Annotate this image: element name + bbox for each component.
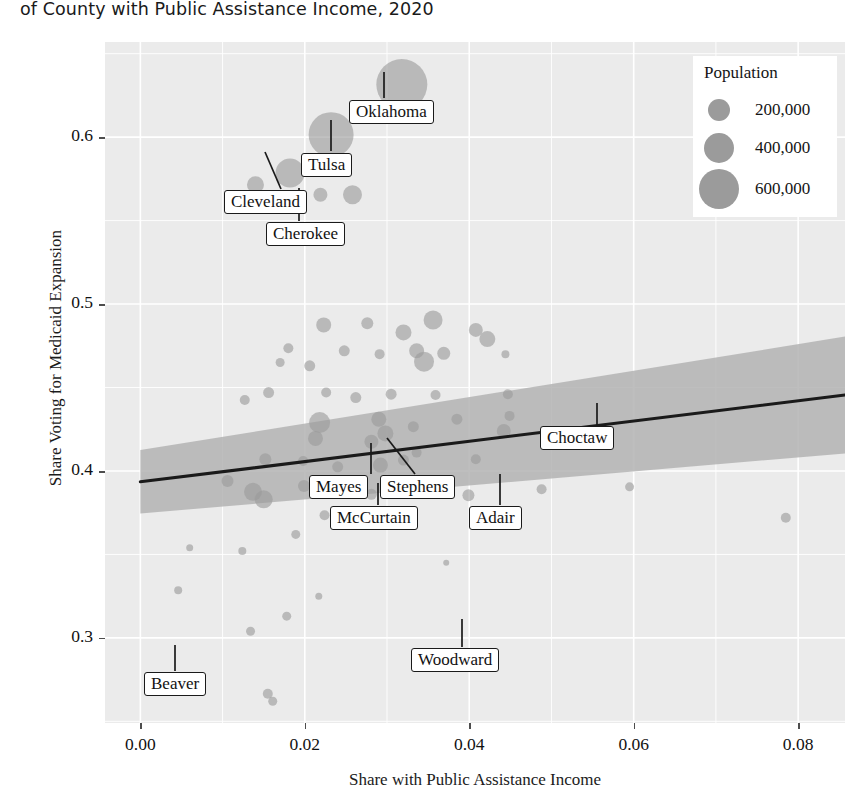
x-axis-label: Share with Public Assistance Income xyxy=(349,770,601,789)
x-tick-label: 0.04 xyxy=(454,734,485,755)
annotation-label-cleveland: Cleveland xyxy=(224,190,307,214)
x-tick-mark xyxy=(305,723,307,729)
annotation-label-adair: Adair xyxy=(469,506,522,530)
x-tick-label: 0.06 xyxy=(618,734,649,755)
legend-item: 400,000 xyxy=(693,129,837,167)
annotation-label-stephens: Stephens xyxy=(380,475,455,499)
annotation-label-cherokee: Cherokee xyxy=(266,222,345,246)
x-tick-label: 0.02 xyxy=(289,734,320,755)
legend: Population 200,000400,000600,000 xyxy=(693,56,837,217)
legend-key-circle xyxy=(708,99,730,121)
legend-label: 400,000 xyxy=(755,138,810,158)
page-title: of County with Public Assistance Income,… xyxy=(20,0,434,19)
annotation-label-mayes: Mayes xyxy=(309,475,368,499)
annotation-label-woodward: Woodward xyxy=(411,648,499,672)
x-tick-mark xyxy=(798,723,800,729)
annotation-label-beaver: Beaver xyxy=(144,672,206,696)
x-axis-label-wrapper: Share with Public Assistance Income xyxy=(105,770,845,790)
y-tick-label: 0.4 xyxy=(35,459,93,480)
legend-label: 600,000 xyxy=(755,179,810,199)
annotation-label-choctaw: Choctaw xyxy=(540,426,614,450)
annotation-label-tulsa: Tulsa xyxy=(301,153,352,177)
x-tick-label: 0.08 xyxy=(783,734,814,755)
legend-item: 600,000 xyxy=(693,170,837,208)
chart-root: of County with Public Assistance Income,… xyxy=(0,0,861,807)
legend-key-circle xyxy=(699,169,739,209)
x-tick-mark xyxy=(634,723,636,729)
legend-title: Population xyxy=(704,63,778,83)
y-tick-label: 0.3 xyxy=(35,626,93,647)
annotation-label-mccurtain: McCurtain xyxy=(330,506,418,530)
legend-item: 200,000 xyxy=(693,91,837,129)
annotation-label-oklahoma: Oklahoma xyxy=(349,100,434,124)
y-tick-label: 0.6 xyxy=(35,125,93,146)
x-tick-mark xyxy=(140,723,142,729)
y-axis-label: Share Voting for Medicaid Expansion xyxy=(46,230,65,486)
x-tick-mark xyxy=(469,723,471,729)
legend-key-circle xyxy=(704,133,734,163)
legend-label: 200,000 xyxy=(755,100,810,120)
y-tick-label: 0.5 xyxy=(35,292,93,313)
x-tick-label: 0.00 xyxy=(125,734,156,755)
